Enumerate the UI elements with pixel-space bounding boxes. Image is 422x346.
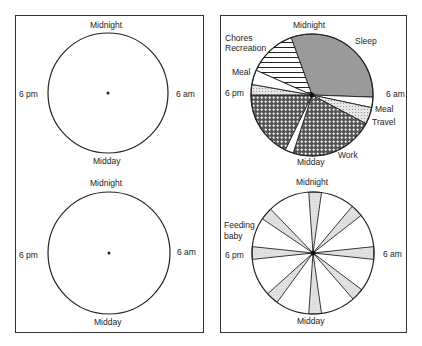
blank-clock-top (48, 33, 168, 153)
label-6am: 6 am (177, 247, 196, 257)
label-6pm: 6 pm (225, 250, 244, 260)
label-6am: 6 am (176, 89, 195, 99)
clock-diagrams (0, 0, 422, 346)
label-travel: Travel (372, 117, 395, 127)
label-midday: Midday (297, 316, 324, 326)
label-work: Work (338, 150, 358, 160)
label-6pm: 6 pm (19, 89, 38, 99)
label-meal-evening: Meal (232, 67, 250, 77)
label-sleep: Sleep (355, 36, 377, 46)
label-midnight: Midnight (90, 178, 122, 188)
center-dot-icon (108, 252, 111, 255)
label-baby: baby (224, 231, 242, 241)
label-feeding: Feeding (224, 220, 255, 230)
label-midnight: Midnight (296, 177, 328, 187)
label-chores: Chores (225, 33, 252, 43)
label-midnight: Midnight (90, 20, 122, 30)
label-6pm: 6 pm (19, 250, 38, 260)
label-6am: 6 am (386, 89, 405, 99)
label-recreation: Recreation (225, 43, 266, 53)
pie-feeding-baby (252, 192, 374, 314)
label-6pm: 6 pm (225, 88, 244, 98)
label-meal-morning: Meal (375, 104, 393, 114)
label-midnight: Midnight (293, 20, 325, 30)
center-dot-icon (107, 92, 110, 95)
label-6am: 6 am (383, 249, 402, 259)
label-midday: Midday (93, 156, 120, 166)
label-midday: Midday (297, 157, 324, 167)
pie-typical-day (251, 34, 373, 156)
blank-clock-bottom (48, 192, 170, 314)
label-midday: Midday (94, 317, 121, 327)
